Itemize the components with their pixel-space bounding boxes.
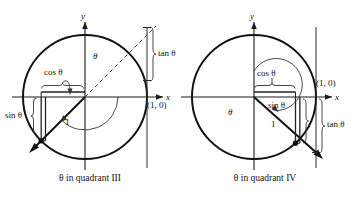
y-axis-arrowhead-left xyxy=(82,22,88,29)
x-axis-arrowhead-left xyxy=(156,94,163,100)
radius-label-right: 1 xyxy=(271,120,276,129)
sin-label-right: sin θ xyxy=(268,101,285,110)
cos-brace-left xyxy=(42,83,84,89)
y-axis-arrowhead-right xyxy=(251,22,257,29)
x-axis-arrowhead-right xyxy=(325,94,332,100)
point-label-left: (1, 0) xyxy=(147,101,167,110)
terminal-ray-right xyxy=(254,97,320,156)
left-panel-graphics: x y xyxy=(12,11,170,170)
tan-brace-right xyxy=(319,99,325,153)
quadrant-iii-diagram: x y xyxy=(0,0,351,198)
right-panel-graphics: x y xyxy=(181,11,339,170)
y-axis-label-right: y xyxy=(249,11,254,21)
caption-right: θ in quadrant IV xyxy=(205,173,325,183)
x-axis-label-right: x xyxy=(334,92,339,102)
caption-left: θ in quadrant III xyxy=(30,173,150,183)
tan-label-left: tan θ xyxy=(158,49,176,58)
tan-brace-left xyxy=(150,27,156,81)
theta-label-right: θ xyxy=(228,108,232,117)
radius-label-left: 1 xyxy=(65,118,70,127)
theta-arc-left xyxy=(62,97,118,130)
tan-label-right: tan θ xyxy=(327,120,345,129)
cos-label-left: cos θ xyxy=(44,68,63,77)
sin-brace-right xyxy=(303,99,309,143)
point-label-right: (1, 0) xyxy=(316,79,336,88)
theta-label-left: θ xyxy=(93,52,97,61)
sin-label-left: sin θ xyxy=(5,111,22,120)
cos-label-right: cos θ xyxy=(257,69,276,78)
cos-brace-right xyxy=(255,83,296,89)
trig-figure: x y xyxy=(0,0,351,198)
y-axis-label-left: y xyxy=(80,11,85,21)
